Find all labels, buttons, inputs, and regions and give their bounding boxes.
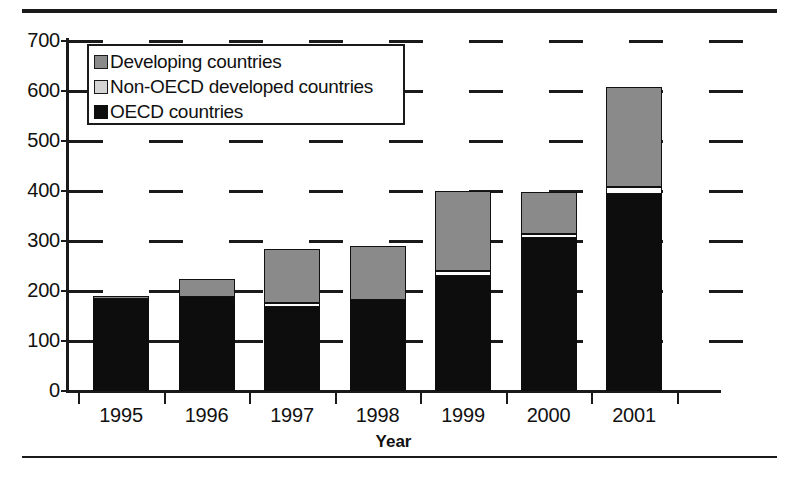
x-axis-tick <box>335 393 337 404</box>
bar-segment-developing-2001 <box>606 87 662 187</box>
legend-label-oecd: OECD countries <box>110 101 243 122</box>
bar-segment-developing-1996 <box>179 279 235 297</box>
y-axis-tick-label-wrap: 100 <box>8 330 60 350</box>
bar-segment-non-oecd-1997 <box>264 303 320 307</box>
gridline <box>69 140 769 143</box>
bar-1999 <box>435 0 491 400</box>
legend-label-developing: Developing countries <box>110 51 281 72</box>
x-axis-tick <box>506 393 508 404</box>
x-axis-label-1999: 1999 <box>423 404 503 426</box>
y-axis-tick-label-wrap: 500 <box>8 130 60 150</box>
bar-segment-developing-1995 <box>93 296 149 299</box>
bar-segment-oecd-1999 <box>435 276 491 391</box>
x-axis-label-2001: 2001 <box>594 404 674 426</box>
bar-segment-developing-1998 <box>350 246 406 300</box>
y-axis-tick <box>61 340 74 342</box>
y-axis-tick-label: 300 <box>14 230 60 250</box>
y-axis-tick-label-wrap: 0 <box>8 380 60 400</box>
bar-segment-developing-1999 <box>435 191 491 271</box>
y-axis-tick <box>61 90 74 92</box>
bar-segment-oecd-2001 <box>606 194 662 391</box>
y-axis-tick-label-wrap: 700 <box>8 30 60 50</box>
figure-container: 0100200300400500600700199519961997199819… <box>0 0 787 479</box>
x-axis-label-1997: 1997 <box>252 404 332 426</box>
bar-segment-oecd-1996 <box>179 297 235 391</box>
chart-legend: Developing countries Non-OECD developed … <box>87 44 405 125</box>
y-axis-tick-label: 0 <box>14 380 60 400</box>
gridline <box>69 340 769 343</box>
bar-2001 <box>606 0 662 400</box>
bar-segment-oecd-1997 <box>264 307 320 391</box>
y-axis-tick <box>61 40 74 42</box>
y-axis-tick <box>61 240 74 242</box>
y-axis-tick-label: 500 <box>14 130 60 150</box>
x-axis-tick <box>591 393 593 404</box>
legend-label-non-oecd: Non-OECD developed countries <box>110 76 373 97</box>
legend-item-oecd: OECD countries <box>94 99 399 124</box>
x-axis-tick <box>78 393 80 404</box>
x-axis-tick <box>677 393 679 404</box>
y-axis-tick <box>61 140 74 142</box>
bar-segment-oecd-1995 <box>93 299 149 392</box>
y-axis-tick-label: 100 <box>14 330 60 350</box>
swatch-oecd-icon <box>94 105 108 119</box>
bar-segment-non-oecd-1999 <box>435 271 491 276</box>
y-axis-tick-label-wrap: 300 <box>8 230 60 250</box>
y-axis-tick-label-wrap: 200 <box>8 280 60 300</box>
bar-segment-oecd-1998 <box>350 300 406 392</box>
x-axis-tick <box>420 393 422 404</box>
bar-segment-non-oecd-2000 <box>521 234 577 238</box>
gridline <box>69 240 769 243</box>
x-axis-label-2000: 2000 <box>509 404 589 426</box>
y-axis-tick <box>61 190 74 192</box>
y-axis-tick-label: 600 <box>14 80 60 100</box>
y-axis-tick-label: 200 <box>14 280 60 300</box>
bar-segment-oecd-2000 <box>521 238 577 391</box>
y-axis-tick-label: 400 <box>14 180 60 200</box>
bar-segment-non-oecd-2001 <box>606 187 662 194</box>
x-axis-label-1996: 1996 <box>167 404 247 426</box>
x-axis-tick <box>164 393 166 404</box>
x-axis-tick <box>249 393 251 404</box>
gridline <box>69 290 769 293</box>
bar-segment-developing-2000 <box>521 192 577 234</box>
y-axis-tick-label: 700 <box>14 30 60 50</box>
x-axis-title: Year <box>0 432 787 452</box>
y-axis-tick-label-wrap: 600 <box>8 80 60 100</box>
x-axis-label-1995: 1995 <box>81 404 161 426</box>
y-axis-tick <box>61 290 74 292</box>
x-axis-label-1998: 1998 <box>338 404 418 426</box>
gridline <box>69 40 769 43</box>
legend-item-developing: Developing countries <box>94 49 399 74</box>
gridline <box>69 190 769 193</box>
swatch-developing-icon <box>94 55 108 69</box>
bar-segment-developing-1997 <box>264 249 320 304</box>
bar-2000 <box>521 0 577 400</box>
swatch-non-oecd-icon <box>94 80 108 94</box>
y-axis-tick-label-wrap: 400 <box>8 180 60 200</box>
legend-item-non-oecd: Non-OECD developed countries <box>94 74 399 99</box>
y-axis-tick <box>61 390 74 392</box>
